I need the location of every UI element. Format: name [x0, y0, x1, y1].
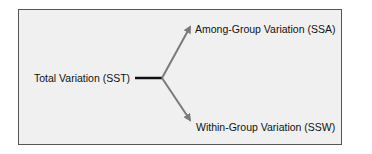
total-variation-label: Total Variation (SST) [34, 72, 130, 84]
arrow-up-icon [162, 27, 190, 78]
arrow-down-icon [162, 78, 190, 120]
among-group-variation-label: Among-Group Variation (SSA) [195, 23, 335, 35]
within-group-variation-label: Within-Group Variation (SSW) [196, 121, 335, 133]
